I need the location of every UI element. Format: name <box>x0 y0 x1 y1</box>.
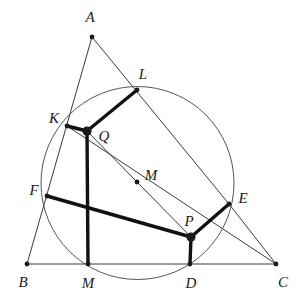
segment-A-B <box>27 37 92 264</box>
point-dot-D[interactable] <box>188 262 193 267</box>
point-dot-L[interactable] <box>135 88 140 93</box>
point-label-B: B <box>18 275 27 290</box>
point-label-Q: Q <box>99 129 110 144</box>
point-dot-A[interactable] <box>90 35 95 40</box>
geometry-figure: ABCKLFEMDQPM <box>0 0 304 301</box>
point-dot-Q[interactable] <box>82 126 91 135</box>
point-dot-P[interactable] <box>186 232 195 241</box>
point-label-D: D <box>186 276 197 291</box>
point-label-Mc: M <box>145 168 158 183</box>
point-dot-B[interactable] <box>25 262 30 267</box>
segment-Q-M <box>87 131 88 264</box>
segment-P-E <box>191 204 229 237</box>
point-label-F: F <box>29 183 38 198</box>
segment-A-E <box>92 37 229 204</box>
point-label-K: K <box>49 111 59 126</box>
segment-E-C <box>229 204 276 264</box>
point-label-C: C <box>278 275 288 290</box>
point-label-A: A <box>85 10 94 25</box>
point-label-Mb: M <box>82 276 95 291</box>
figure-canvas <box>0 0 304 301</box>
point-dot-Mb[interactable] <box>86 262 91 267</box>
point-dot-K[interactable] <box>65 124 70 129</box>
point-dot-Mc[interactable] <box>135 180 140 185</box>
point-dot-E[interactable] <box>227 202 232 207</box>
point-label-L: L <box>139 67 147 82</box>
point-dot-C[interactable] <box>274 262 279 267</box>
point-dot-F[interactable] <box>45 194 50 199</box>
segment-F-P <box>47 196 191 237</box>
point-label-P: P <box>184 214 193 229</box>
point-label-E: E <box>238 191 247 206</box>
